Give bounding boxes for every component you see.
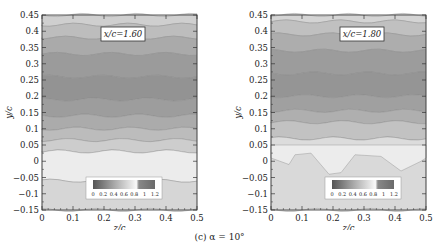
y-tick-label: 0.05 xyxy=(249,140,268,150)
x-tick-label: 0.4 xyxy=(159,213,173,223)
colorbar-tick: 0 xyxy=(330,191,333,197)
colorbar-tick: 0.8 xyxy=(369,191,377,197)
x-tick-label: 0.1 xyxy=(295,213,309,223)
x-axis-label: z/c xyxy=(112,223,125,230)
y-tick-label: 0.3 xyxy=(25,59,39,69)
y-tick-label: 0.2 xyxy=(25,91,39,101)
y-tick-label: −0.1 xyxy=(247,189,268,199)
colorbar-tick: 0 xyxy=(91,191,94,197)
y-tick-label: 0.3 xyxy=(254,59,268,69)
colorbar-tick: 1.2 xyxy=(151,191,159,197)
x-tick-label: 0.5 xyxy=(190,213,204,223)
x-tick-label: 0.4 xyxy=(388,213,402,223)
y-tick-label: −0.15 xyxy=(13,205,39,215)
y-tick-label: −0.15 xyxy=(242,205,268,215)
x-tick-label: 0.2 xyxy=(97,213,111,223)
y-axis-label: y/c xyxy=(4,106,14,120)
x-tick-label: 0.2 xyxy=(326,213,340,223)
y-tick-label: 0.15 xyxy=(249,108,268,118)
y-tick-label: −0.05 xyxy=(242,173,268,183)
colorbar-tick: 0.4 xyxy=(349,191,357,197)
colorbar-tick: 0.4 xyxy=(110,191,118,197)
colorbar-tick: 1 xyxy=(382,191,385,197)
y-tick-label: 0.2 xyxy=(254,91,268,101)
panel-right: 0.450.40.350.30.250.20.150.10.050−0.05−0… xyxy=(229,0,439,230)
y-tick-label: 0.1 xyxy=(25,124,39,134)
y-tick-label: 0 xyxy=(263,156,268,166)
x-tick-label: 0 xyxy=(39,213,44,223)
y-tick-label: 0 xyxy=(34,156,39,166)
y-tick-label: 0.4 xyxy=(25,26,39,36)
y-tick-label: 0.45 xyxy=(20,10,39,20)
colorbar-tick: 0.6 xyxy=(359,191,367,197)
panel-left: 0.450.40.350.30.250.20.150.10.050−0.05−0… xyxy=(0,0,220,230)
colorbar-tick: 1 xyxy=(143,191,146,197)
y-tick-label: 0.25 xyxy=(249,75,268,85)
y-axis-label: y/c xyxy=(233,106,243,120)
y-tick-label: 0.1 xyxy=(254,124,268,134)
y-tick-label: 0.35 xyxy=(20,43,39,53)
y-tick-label: 0.05 xyxy=(20,140,39,150)
colorbar-tick: 0.8 xyxy=(130,191,138,197)
x-tick-label: 0 xyxy=(268,213,273,223)
colorbar-tick: 0.2 xyxy=(99,191,107,197)
station-label: x/c=1.60 xyxy=(104,29,143,39)
y-tick-label: 0.4 xyxy=(254,26,268,36)
y-tick-label: 0.45 xyxy=(249,10,268,20)
figure-caption: (c) α = 10° xyxy=(0,232,439,242)
colorbar-tick: 0.2 xyxy=(338,191,346,197)
x-axis-label: z/c xyxy=(341,223,354,230)
y-tick-label: 0.15 xyxy=(20,108,39,118)
x-tick-label: 0.3 xyxy=(357,213,371,223)
y-tick-label: 0.35 xyxy=(249,43,268,53)
y-tick-label: 0.25 xyxy=(20,75,39,85)
x-tick-label: 0.3 xyxy=(128,213,142,223)
y-tick-label: −0.05 xyxy=(13,173,39,183)
y-tick-label: −0.1 xyxy=(18,189,39,199)
colorbar-tick: 0.6 xyxy=(120,191,128,197)
x-tick-label: 0.5 xyxy=(419,213,433,223)
x-tick-label: 0.1 xyxy=(66,213,80,223)
colorbar-tick: 1.2 xyxy=(390,191,398,197)
station-label: x/c=1.80 xyxy=(343,29,382,39)
